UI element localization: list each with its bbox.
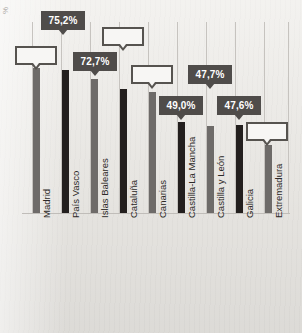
callout-value: 72,7%	[81, 57, 110, 67]
callout-box: 49,0%	[159, 96, 203, 115]
callout-value: 47,7%	[196, 70, 225, 80]
callout-galicia: 47,6%	[217, 96, 261, 115]
x-tick-label-islas-baleares: Islas Baleares	[99, 158, 110, 218]
callout-castilla-la-mancha: 49,0%	[159, 96, 203, 115]
callout-islas-baleares: 72,7%	[73, 52, 117, 71]
callout-value: 47,6%	[225, 101, 254, 111]
callout-box: 47,6%	[217, 96, 261, 115]
x-tick-label-canarias: Canarias	[157, 180, 168, 218]
gridline	[288, 22, 289, 214]
x-tick-label-cataluna: Cataluña	[128, 180, 139, 218]
bar-chart: % 75,2%	[0, 0, 302, 333]
callout-box: 72,7%	[73, 52, 117, 71]
callout-tail	[58, 29, 68, 35]
bar-galicia	[236, 125, 243, 213]
axis-label-fragment: %	[1, 7, 10, 14]
bar-extremadura	[265, 145, 272, 213]
bar-madrid	[33, 68, 40, 213]
bar-cataluna	[120, 89, 127, 213]
x-tick-label-pais-vasco: País Vasco	[70, 171, 81, 218]
bar-canarias	[149, 92, 156, 213]
bar-islas-baleares	[91, 79, 98, 213]
callout-tail	[205, 83, 215, 89]
x-tick-label-galicia: Galicia	[244, 189, 255, 218]
callout-canarias	[131, 65, 173, 84]
callout-tail	[262, 140, 272, 146]
x-tick-label-castilla-la-mancha: Castilla-La Mancha	[186, 137, 197, 218]
callout-value: 75,2%	[49, 16, 78, 26]
bar-pais-vasco	[62, 70, 69, 213]
callout-tail	[118, 45, 128, 51]
callout-box: 47,7%	[188, 65, 232, 84]
callout-madrid	[15, 46, 57, 65]
callout-cataluna	[102, 27, 144, 46]
callout-tail	[147, 83, 157, 89]
bar-castilla-y-leon	[207, 126, 214, 213]
callout-tail	[176, 114, 186, 120]
callout-castilla-y-leon: 47,7%	[188, 65, 232, 84]
callout-tail	[31, 64, 41, 70]
callout-extremadura	[246, 122, 288, 141]
x-tick-label-madrid: Madrid	[41, 189, 52, 218]
x-tick-label-extremadura: Extremadura	[273, 164, 284, 218]
callout-tail	[90, 70, 100, 76]
bar-castilla-la-mancha	[178, 122, 185, 213]
plot-area: % 75,2%	[0, 0, 302, 333]
callout-box: 75,2%	[41, 11, 85, 30]
x-tick-label-castilla-y-leon: Castilla y León	[215, 156, 226, 218]
callout-pais-vasco: 75,2%	[41, 11, 85, 30]
callout-value: 49,0%	[167, 101, 196, 111]
callout-tail	[234, 114, 244, 120]
